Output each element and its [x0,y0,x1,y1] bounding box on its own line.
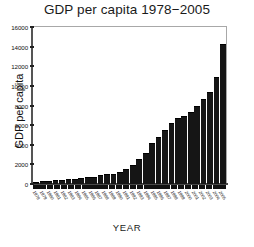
y-tick-label: 0 [25,181,28,188]
y-tick-label: 10000 [11,82,28,89]
bar [72,179,78,184]
bar [85,177,91,184]
y-tick-mark [30,105,34,107]
bar [201,99,207,184]
bar [169,123,175,184]
bar [66,179,72,184]
y-tick-label: 8000 [15,102,28,109]
y-tick-label: 14000 [11,43,28,50]
bar [46,181,52,184]
y-tick-mark [30,124,34,126]
x-tick-label-slot: 1984 [74,189,81,219]
y-tick-mark [30,163,34,165]
bar [194,106,200,184]
bar [181,116,187,184]
x-tick-label-slot: 1994 [143,189,150,219]
bar [117,172,123,184]
y-tick-mark [30,85,34,87]
bar [188,112,194,184]
chart-title: GDP per capita 1978−2005 [0,2,254,17]
bar [104,174,110,184]
bar [91,177,97,184]
bar [78,178,84,184]
y-tick-label: 6000 [15,122,28,129]
bar [40,181,46,184]
y-tick-mark [30,26,34,28]
y-tick-mark [30,144,34,146]
bar [123,169,129,184]
y-tick-mark [30,183,34,185]
chart-figure: GDP per capita 1978−2005 GDP per capita … [0,0,254,247]
x-tick-label-slot: 2005 [219,189,226,219]
bar [220,44,226,184]
bar [162,130,168,184]
bar [136,159,142,184]
y-tick-mark [30,46,34,48]
x-tick-label-slot: 2002 [198,189,205,219]
x-axis-title: YEAR [0,222,254,233]
y-tick-label: 16000 [11,24,28,31]
x-tick-label-slot: 1985 [81,189,88,219]
bar [149,143,155,184]
bar [143,153,149,184]
bar [111,174,117,184]
bar-series [33,27,226,184]
x-axis-tick-labels: 1978197919801981198219831984198519861987… [33,189,226,219]
y-axis-tick-labels: 0200040006000800010000120001400016000 [0,0,28,247]
bar [59,180,65,184]
bar [207,92,213,184]
x-tick-label-slot: 2003 [205,189,212,219]
y-tick-label: 2000 [15,161,28,168]
bar [130,165,136,184]
y-tick-mark [30,65,34,67]
y-tick-label: 12000 [11,63,28,70]
x-tick-label-slot: 1993 [136,189,143,219]
bar [175,118,181,184]
y-tick-label: 4000 [15,141,28,148]
bar [53,180,59,184]
x-tick-label: 2005 [218,190,227,201]
bar [33,182,39,184]
bar [214,77,220,184]
bar [156,137,162,184]
bar [98,175,104,184]
